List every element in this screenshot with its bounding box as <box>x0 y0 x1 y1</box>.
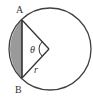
label-radius-r: r <box>34 64 38 75</box>
label-angle-theta: θ <box>30 44 35 55</box>
label-point-b: B <box>15 84 22 95</box>
shaded-segment <box>10 20 22 78</box>
angle-arc <box>39 42 42 57</box>
circle-segment-diagram: A B θ r <box>0 0 93 99</box>
label-point-a: A <box>16 4 24 15</box>
radius-oa <box>22 20 49 49</box>
